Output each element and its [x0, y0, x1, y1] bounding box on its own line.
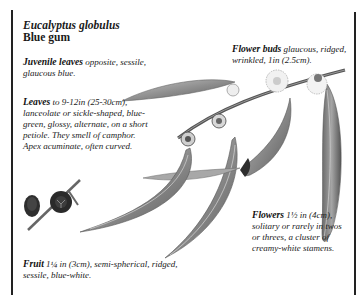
leaf-mid-right — [243, 98, 291, 176]
leaf-center-curved — [165, 137, 237, 258]
flower-buds-label: Flower buds — [232, 43, 281, 54]
flower-buds-note: Flower buds glaucous, ridged, wrinkled, … — [232, 43, 357, 66]
flowers-label: Flowers — [252, 209, 284, 220]
juvenile-leaves-note: Juvenile leaves opposite, sessile, glauc… — [23, 56, 173, 79]
fruit-label: Fruit — [23, 258, 44, 269]
flowers-note: Flowers 1½ in (4cm), solitary or rarely … — [252, 209, 342, 254]
fruit-text: 1¼ in (3cm), semi-spherical, ridged, ses… — [23, 259, 178, 280]
leaf-lower-sickle — [80, 148, 192, 232]
juvenile-leaves-label: Juvenile leaves — [23, 56, 83, 67]
leaves-label: Leaves — [23, 96, 50, 107]
fruit-cluster — [24, 180, 80, 230]
leaves-note: Leaves to 9-12in (25-30cm), lanceolate o… — [23, 96, 148, 152]
fruit-note: Fruit 1¼ in (3cm), semi-spherical, ridge… — [23, 258, 198, 281]
